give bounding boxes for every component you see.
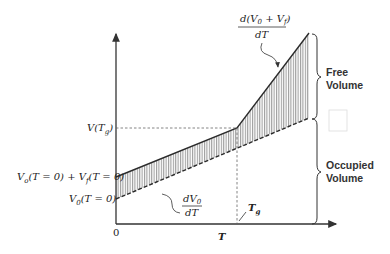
- free-volume-label-1: Free: [326, 66, 348, 78]
- occupied-slope-pointer: [162, 194, 180, 213]
- free-volume-diagram: Free Volume Occupied Volume V(Tg) Vo(T =…: [0, 0, 390, 254]
- occupied-volume-brace: [312, 119, 321, 224]
- free-volume-label-2: Volume: [326, 79, 363, 91]
- v0-label: V0(T = 0): [69, 193, 116, 207]
- x-axis-label: T: [218, 231, 227, 242]
- occupied-volume-line: [116, 118, 309, 199]
- occupied-slope-numerator: dV0: [183, 193, 202, 206]
- occupied-slope-denominator: dT: [185, 207, 199, 218]
- v-tg-label: V(Tg): [87, 122, 113, 136]
- origin-label: 0: [113, 227, 119, 238]
- total-slope-denominator: dT: [255, 29, 269, 40]
- total-slope-pointer: [261, 43, 278, 67]
- total-slope-numerator: d(V0 + Vf): [240, 13, 291, 26]
- tg-label: Tg: [248, 202, 260, 216]
- v0-plus-vf-label: Vo(T = 0) + Vf(T = 0): [17, 171, 124, 185]
- tg-pointer: [239, 212, 246, 221]
- free-volume-hatch: [116, 33, 309, 199]
- free-volume-brace: [312, 34, 321, 119]
- occupied-volume-label-1: Occupied: [326, 159, 374, 171]
- faint-box: [329, 110, 347, 131]
- occupied-volume-label-2: Volume: [326, 172, 363, 184]
